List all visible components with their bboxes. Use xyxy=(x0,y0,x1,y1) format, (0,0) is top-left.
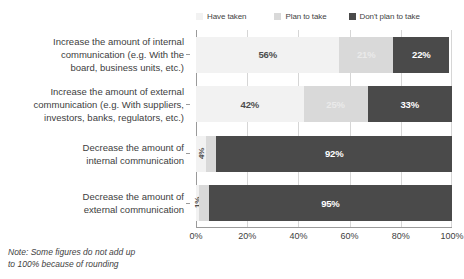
legend-item-have-taken: Have taken xyxy=(196,12,246,21)
bar-rows: 56% 21% 22% 42% 25% xyxy=(196,30,452,228)
footnote-line-1: Note: Some figures do not add up xyxy=(8,246,218,258)
category-line: internal communication xyxy=(86,155,184,166)
category-label-decrease-internal: Decrease the amount of internal communic… xyxy=(8,129,190,179)
legend-label-plan-to-take: Plan to take xyxy=(285,12,326,21)
legend-swatch-dont-plan-to-take xyxy=(349,13,356,20)
x-tick-label: 20% xyxy=(238,231,256,241)
segment-plan-to-take[interactable] xyxy=(206,136,216,172)
stacked-bar: 1% 95% xyxy=(196,185,452,221)
segment-plan-to-take[interactable] xyxy=(199,185,209,221)
x-tick-label: 80% xyxy=(392,231,410,241)
axis-tick xyxy=(186,54,190,55)
category-line: external communication xyxy=(84,204,184,215)
segment-plan-to-take[interactable]: 25% xyxy=(304,86,368,122)
segment-value-label: 92% xyxy=(325,148,343,159)
segment-value-label: 42% xyxy=(241,99,259,110)
category-label-increase-external: Increase the amount of external communic… xyxy=(8,80,190,130)
category-line: board, business units, etc.) xyxy=(70,62,184,73)
chart-footnote: Note: Some figures do not add up to 100%… xyxy=(8,246,218,270)
category-label-text: Decrease the amount of internal communic… xyxy=(83,141,184,167)
category-axis-labels: Increase the amount of internal communic… xyxy=(8,30,190,228)
plot-area: 56% 21% 22% 42% 25% xyxy=(196,30,452,228)
bar-row-decrease-external: 1% 95% xyxy=(196,179,452,229)
stacked-bar: 56% 21% 22% xyxy=(196,37,452,73)
chart-legend: Have taken Plan to take Don't plan to ta… xyxy=(196,8,452,24)
legend-swatch-have-taken xyxy=(196,13,203,20)
axis-tick xyxy=(186,153,190,154)
segment-have-taken[interactable]: 4% xyxy=(196,136,206,172)
category-line: Decrease the amount of xyxy=(83,191,184,202)
legend-item-dont-plan-to-take: Don't plan to take xyxy=(349,12,420,21)
segment-plan-to-take[interactable]: 21% xyxy=(339,37,393,73)
category-label-text: Increase the amount of external communic… xyxy=(34,85,184,124)
x-tick-label: 0% xyxy=(189,231,202,241)
bar-row-increase-external: 42% 25% 33% xyxy=(196,80,452,130)
legend-swatch-plan-to-take xyxy=(274,13,281,20)
category-label-text: Decrease the amount of external communic… xyxy=(83,190,184,216)
category-line: communication (e.g. With suppliers, xyxy=(34,99,184,110)
footnote-line-2: to 100% because of rounding xyxy=(8,258,218,270)
category-line: Decrease the amount of xyxy=(83,142,184,153)
segment-value-label: 95% xyxy=(321,198,339,209)
category-label-increase-internal: Increase the amount of internal communic… xyxy=(8,30,190,80)
category-line: communication (e.g. With the xyxy=(61,49,184,60)
segment-dont-plan-to-take[interactable]: 22% xyxy=(393,37,449,73)
segment-dont-plan-to-take[interactable]: 33% xyxy=(368,86,452,122)
segment-have-taken[interactable]: 42% xyxy=(196,86,304,122)
segment-have-taken[interactable]: 56% xyxy=(196,37,339,73)
segment-value-label: 22% xyxy=(412,49,430,60)
segment-value-label: 56% xyxy=(258,49,276,60)
segment-dont-plan-to-take[interactable]: 95% xyxy=(209,185,452,221)
segment-value-label: 25% xyxy=(326,99,344,110)
segment-value-label: 33% xyxy=(401,99,419,110)
x-tick-label: 40% xyxy=(289,231,307,241)
legend-label-dont-plan-to-take: Don't plan to take xyxy=(360,12,420,21)
category-line: Increase the amount of external xyxy=(50,86,184,97)
legend-item-plan-to-take: Plan to take xyxy=(274,12,326,21)
category-line: investors, banks, regulators, etc.) xyxy=(44,112,184,123)
bar-row-increase-internal: 56% 21% 22% xyxy=(196,30,452,80)
stacked-bar: 4% 92% xyxy=(196,136,452,172)
legend-label-have-taken: Have taken xyxy=(207,12,246,21)
bar-row-decrease-internal: 4% 92% xyxy=(196,129,452,179)
x-tick-label: 100% xyxy=(440,231,463,241)
category-label-text: Increase the amount of internal communic… xyxy=(53,35,184,74)
segment-dont-plan-to-take[interactable]: 92% xyxy=(216,136,452,172)
x-tick-label: 60% xyxy=(341,231,359,241)
x-axis-tick-labels: 0% 20% 40% 60% 80% 100% xyxy=(196,231,452,245)
axis-tick xyxy=(186,104,190,105)
segment-value-label: 4% xyxy=(197,145,206,161)
axis-tick xyxy=(186,203,190,204)
segment-value-label: 21% xyxy=(357,49,375,60)
stacked-bar: 42% 25% 33% xyxy=(196,86,452,122)
category-line: Increase the amount of internal xyxy=(53,36,184,47)
category-label-decrease-external: Decrease the amount of external communic… xyxy=(8,179,190,229)
